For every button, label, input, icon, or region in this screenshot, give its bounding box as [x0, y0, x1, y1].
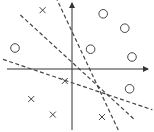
- circle-icon: [128, 53, 137, 62]
- circle-icon: [99, 10, 108, 19]
- classification-diagram: [0, 0, 154, 132]
- line-1: [56, 0, 121, 132]
- separating-lines: [3, 0, 152, 132]
- circle-icon: [11, 44, 20, 53]
- cross-class-points: [28, 7, 105, 120]
- circle-icon: [125, 85, 134, 94]
- circle-icon: [86, 45, 95, 54]
- cross-icon: [50, 112, 56, 118]
- cross-icon: [40, 7, 46, 13]
- cross-icon: [99, 114, 105, 120]
- cross-icon: [28, 96, 34, 102]
- circle-icon: [121, 24, 130, 33]
- circle-class-points: [11, 10, 137, 94]
- line-2: [20, 15, 135, 120]
